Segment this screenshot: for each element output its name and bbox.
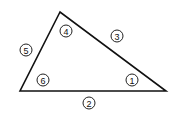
svg-text:1: 1 [129,76,134,86]
svg-text:6: 6 [40,76,45,86]
triangle-diagram: 1 2 3 4 5 6 [0,0,175,115]
svg-text:3: 3 [114,32,119,42]
label-2-side: 2 [83,97,95,109]
label-6-angle: 6 [37,74,49,86]
label-1-angle: 1 [126,74,138,86]
label-4-angle: 4 [60,25,72,37]
svg-text:4: 4 [63,27,68,37]
svg-text:2: 2 [86,99,91,109]
label-5-side: 5 [20,44,32,56]
svg-text:5: 5 [23,46,28,56]
label-3-side: 3 [111,30,123,42]
